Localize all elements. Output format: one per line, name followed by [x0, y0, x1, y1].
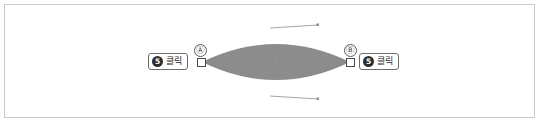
- callout-text-left: 클릭: [166, 56, 182, 67]
- leader-line-bottom-endpoint: [317, 98, 320, 101]
- anchor-handle-b[interactable]: [346, 58, 355, 67]
- shape-center-point: [275, 61, 277, 63]
- callout-click-left: 5 클릭: [148, 53, 188, 70]
- leader-line-bottom: [270, 96, 318, 99]
- callout-text-right: 클릭: [377, 56, 393, 67]
- vector-illustration: [0, 0, 540, 124]
- illustration-canvas: [0, 0, 540, 124]
- step-badge-left: 5: [152, 56, 163, 67]
- marker-label-a: Ⓐ: [194, 44, 207, 57]
- callout-click-right: 5 클릭: [359, 53, 399, 70]
- anchor-handle-a[interactable]: [197, 58, 206, 67]
- leader-line-top-endpoint: [317, 24, 320, 27]
- marker-label-b: Ⓑ: [344, 44, 357, 57]
- step-badge-right: 5: [363, 56, 374, 67]
- leader-line-top: [270, 25, 318, 28]
- screenshot-root: Ⓐ Ⓑ 5 클릭 5 클릭: [0, 0, 540, 124]
